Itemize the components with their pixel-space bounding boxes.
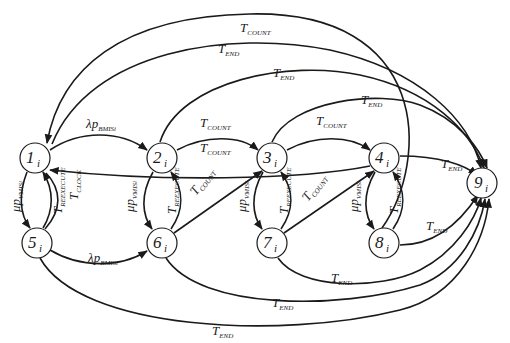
node-6: 6i (147, 228, 177, 258)
node-5: 5i (22, 228, 52, 258)
svg-text:i: i (386, 157, 389, 169)
label-4-9-end: TEND (441, 156, 462, 173)
label-3-4-count: TCOUNT (316, 113, 348, 130)
label-6-2-reexec: TREEXECUTE (164, 167, 181, 214)
svg-text:6: 6 (153, 233, 162, 252)
label-7-9-end: TEND (331, 270, 352, 287)
svg-text:8: 8 (375, 233, 384, 252)
label-8-1-count: TCOUNT (240, 20, 272, 37)
label-3-7-mu: μpVMISi (234, 181, 251, 213)
node-2: 2i (147, 143, 177, 173)
svg-text:3: 3 (262, 148, 272, 167)
node-1: 1i (20, 143, 50, 173)
svg-text:5: 5 (28, 233, 37, 252)
label-2-9-end: TEND (273, 65, 294, 82)
svg-text:i: i (37, 157, 40, 169)
label-7-3-reexec: TREEXECUTE (276, 167, 293, 214)
svg-text:9: 9 (474, 173, 483, 192)
label-5-1-clock: TCLOCK (66, 169, 83, 200)
edge-5-1-reexec (43, 172, 51, 228)
edge-2-6-mu (144, 172, 153, 229)
svg-text:i: i (274, 242, 277, 254)
svg-text:2: 2 (153, 148, 162, 167)
node-9: 9i (467, 168, 497, 198)
svg-text:i: i (164, 242, 167, 254)
svg-text:4: 4 (375, 148, 384, 167)
edge-1-2-lambda (50, 135, 147, 150)
label-2-6-mu: μpVMISi (122, 181, 139, 213)
svg-text:1: 1 (26, 148, 35, 167)
label-5-6-lambda: λpBMISi (87, 250, 118, 267)
edge-4-9-end (400, 156, 477, 175)
svg-text:i: i (39, 242, 42, 254)
node-4: 4i (369, 143, 399, 173)
svg-text:i: i (274, 157, 277, 169)
node-3: 3i (257, 143, 287, 173)
svg-text:i: i (485, 182, 488, 194)
label-6-9-end: TEND (272, 295, 293, 312)
edge-3-4-count (287, 139, 370, 150)
label-3-9-end: TEND (361, 92, 382, 109)
node-7: 7i (257, 228, 287, 258)
label-5-1-reexec: TREEXECUTE (50, 167, 67, 214)
svg-text:i: i (164, 157, 167, 169)
edge-3-7-mu (254, 172, 263, 229)
label-8-9-end: TEND (426, 218, 447, 235)
label-4-8-mu: μpVMISi (346, 181, 363, 213)
label-6-3-count: TCOUNT (186, 163, 219, 199)
edge-4-8-mu (366, 172, 375, 229)
label-3-1-count: TCOUNT (200, 140, 232, 157)
svg-text:i: i (386, 242, 389, 254)
edges (21, 14, 489, 326)
label-1-2-lambda: λpBMISi (85, 116, 116, 133)
edge-8-9-end (400, 195, 478, 245)
label-1-5-mu: μpVMISi (8, 181, 25, 213)
label-8-4-reexec: TREEXECUTE (386, 167, 403, 214)
node-8: 8i (369, 228, 399, 258)
edge-6-9-end (166, 199, 485, 301)
label-2-3-count: TCOUNT (200, 115, 232, 132)
state-diagram: TCOUNT TEND TEND TEND λpBMISi TCOUNT TCO… (0, 0, 510, 343)
